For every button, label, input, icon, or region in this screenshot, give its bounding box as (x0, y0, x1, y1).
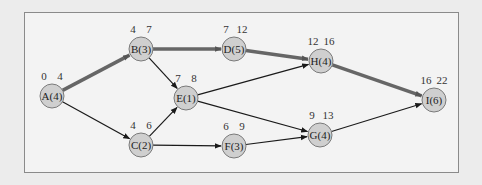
edge-c-to-f (153, 145, 221, 146)
early-finish-label: 12 (237, 23, 248, 35)
node-e: E(1)78 (174, 72, 198, 110)
edge-c-to-e (149, 107, 177, 136)
edge-a-to-b-critical (63, 55, 130, 90)
early-start-label: 0 (41, 70, 47, 82)
edge-d-to-h-critical (246, 51, 308, 60)
edge-e-to-h (198, 64, 309, 94)
node-i: I(6)1622 (421, 74, 448, 112)
edge-e-to-g (198, 101, 308, 131)
node-label: A(4) (42, 90, 63, 103)
early-finish-label: 6 (146, 119, 152, 131)
node-label: E(1) (176, 92, 196, 105)
early-finish-label: 8 (191, 72, 197, 84)
nodes-layer: A(4)04B(3)47C(2)46D(5)712E(1)78F(3)69G(4… (40, 23, 448, 158)
activity-network-graph: A(4)04B(3)47C(2)46D(5)712E(1)78F(3)69G(4… (0, 0, 482, 185)
early-start-label: 6 (223, 120, 229, 132)
edge-h-to-i-critical (332, 65, 421, 96)
early-finish-label: 22 (437, 74, 448, 86)
node-label: I(6) (426, 94, 443, 107)
node-label: G(4) (310, 129, 331, 142)
node-d: D(5)712 (222, 23, 248, 61)
early-start-label: 4 (130, 119, 136, 131)
node-label: F(3) (225, 140, 244, 153)
node-label: C(2) (131, 139, 152, 152)
edge-g-to-i (332, 104, 422, 132)
early-finish-label: 13 (323, 109, 335, 121)
early-finish-label: 9 (239, 120, 245, 132)
diagram-canvas: A(4)04B(3)47C(2)46D(5)712E(1)78F(3)69G(4… (0, 0, 482, 185)
early-finish-label: 16 (324, 35, 336, 47)
node-label: B(3) (131, 43, 152, 56)
node-h: H(4)1216 (308, 35, 336, 73)
node-label: H(4) (311, 55, 332, 68)
node-label: D(5) (224, 43, 245, 56)
early-start-label: 9 (309, 109, 315, 121)
node-f: F(3)69 (222, 120, 246, 158)
node-c: C(2)46 (129, 119, 153, 157)
early-start-label: 7 (175, 72, 181, 84)
early-finish-label: 4 (57, 70, 63, 82)
early-start-label: 4 (130, 23, 136, 35)
early-start-label: 7 (223, 23, 229, 35)
early-start-label: 16 (421, 74, 433, 86)
node-a: A(4)04 (40, 70, 64, 108)
edge-f-to-g (246, 137, 307, 145)
node-b: B(3)47 (129, 23, 153, 61)
node-g: G(4)913 (308, 109, 334, 147)
early-finish-label: 7 (146, 23, 152, 35)
edge-b-to-e (149, 58, 177, 89)
early-start-label: 12 (308, 35, 319, 47)
edge-a-to-c (63, 102, 130, 139)
